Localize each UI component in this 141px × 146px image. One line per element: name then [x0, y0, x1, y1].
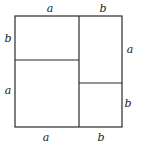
- label-left-a: a: [5, 84, 12, 97]
- label-right-a: a: [127, 43, 134, 56]
- label-bottom-a: a: [43, 131, 50, 144]
- label-bottom-b: b: [97, 131, 104, 144]
- label-right-b: b: [124, 97, 131, 110]
- label-top-b: b: [99, 2, 106, 15]
- square-partition-diagram: a b b a a b a b: [0, 0, 141, 146]
- label-top-a: a: [47, 2, 54, 15]
- label-left-b: b: [4, 32, 11, 45]
- outer-square: [15, 16, 122, 127]
